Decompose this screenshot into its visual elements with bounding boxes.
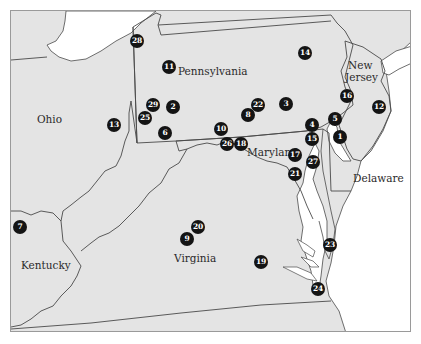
map-frame: Pennsylvania Ohio New Jersey Maryland De… xyxy=(10,10,411,332)
map-marker[interactable]: 6 xyxy=(158,126,172,140)
map-marker[interactable]: 7 xyxy=(13,220,27,234)
map-marker[interactable]: 26 xyxy=(220,137,234,151)
map-marker[interactable]: 21 xyxy=(288,167,302,181)
state-label-delaware: Delaware xyxy=(353,172,404,184)
state-label-pennsylvania: Pennsylvania xyxy=(178,65,248,77)
state-label-new: New xyxy=(348,59,372,71)
map-marker[interactable]: 15 xyxy=(305,132,319,146)
map-marker[interactable]: 2 xyxy=(166,100,180,114)
map-marker[interactable]: 24 xyxy=(311,282,325,296)
map-marker[interactable]: 11 xyxy=(162,60,176,74)
map-marker[interactable]: 25 xyxy=(138,111,152,125)
state-label-jersey: Jersey xyxy=(345,71,378,83)
map-marker[interactable]: 9 xyxy=(180,232,194,246)
state-label-kentucky: Kentucky xyxy=(21,259,71,271)
map-marker[interactable]: 19 xyxy=(254,255,268,269)
map-marker[interactable]: 27 xyxy=(306,155,320,169)
map-marker[interactable]: 20 xyxy=(191,220,205,234)
map-marker[interactable]: 29 xyxy=(146,98,160,112)
map-marker[interactable]: 28 xyxy=(130,34,144,48)
map-marker[interactable]: 14 xyxy=(298,46,312,60)
map-marker[interactable]: 17 xyxy=(288,148,302,162)
map-marker[interactable]: 16 xyxy=(340,89,354,103)
map-marker[interactable]: 10 xyxy=(214,122,228,136)
map-marker[interactable]: 1 xyxy=(333,130,347,144)
map-marker[interactable]: 23 xyxy=(323,238,337,252)
map-marker[interactable]: 4 xyxy=(305,118,319,132)
map-marker[interactable]: 12 xyxy=(372,100,386,114)
map-marker[interactable]: 3 xyxy=(279,97,293,111)
state-label-virginia: Virginia xyxy=(174,252,216,264)
state-label-ohio: Ohio xyxy=(37,113,62,125)
map-marker[interactable]: 13 xyxy=(107,118,121,132)
map-marker[interactable]: 22 xyxy=(251,98,265,112)
map-marker[interactable]: 18 xyxy=(234,137,248,151)
map-marker[interactable]: 5 xyxy=(328,112,342,126)
